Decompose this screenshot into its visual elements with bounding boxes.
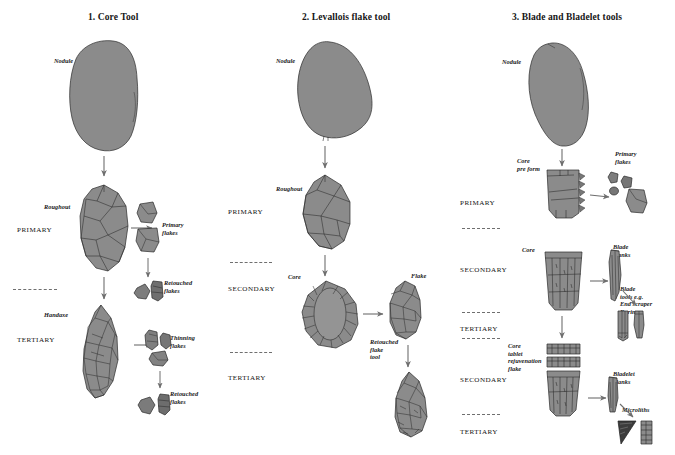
arrow-to-microliths-col3 (620, 404, 633, 417)
lithic-reduction-diagram (0, 0, 675, 455)
shape-retouched-flake-a-col1 (134, 284, 150, 299)
shape-core-blade-col3 (545, 252, 582, 310)
shape-primary-flake-a-col1 (137, 202, 157, 223)
shape-core-tablet-b-col3 (547, 357, 580, 367)
shape-nodule-col3 (529, 43, 589, 146)
shape-burin-col3 (634, 311, 644, 338)
shape-primary-flake-c-col3 (610, 187, 619, 195)
shape-retouched-flake-tool-col2 (395, 372, 427, 437)
shape-end-scraper-col3 (618, 311, 628, 341)
shape-core-pre-form-col3 (547, 170, 585, 218)
shape-retouched-flake-d-col1 (158, 394, 170, 415)
arrow-to-blade-tools-col3 (623, 291, 636, 305)
shape-thinning-flake-a-col1 (145, 330, 158, 350)
shape-roughout-col2 (303, 175, 350, 249)
shape-handaxe-col1 (83, 305, 118, 398)
shape-microlith-rectangle-col3 (641, 421, 652, 444)
shape-thinning-flake-b-col1 (160, 333, 171, 349)
shape-primary-flake-a-col3 (608, 172, 618, 183)
shape-retouched-flake-c-col1 (138, 397, 155, 414)
shape-primary-flake-d-col3 (626, 189, 647, 213)
shape-microlith-triangle-col3 (618, 421, 636, 444)
shape-retouched-flake-b-col1 (151, 281, 163, 301)
shape-core-col2 (302, 281, 358, 348)
shape-thinning-flake-c-col1 (149, 351, 168, 366)
shape-nodule-col1 (70, 41, 138, 151)
shape-core-tablet-a-col3 (547, 344, 580, 354)
shape-bladelet-blank-col3 (608, 377, 618, 412)
shape-bladelet-core-col3 (547, 371, 580, 416)
shape-blade-blank-col3 (609, 250, 621, 301)
shape-primary-flake-b-col1 (136, 228, 159, 252)
shape-flake-col2 (390, 281, 421, 339)
arrow-to-primary-flakes-col3 (590, 195, 609, 197)
shape-primary-flake-b-col3 (621, 176, 632, 188)
shape-roughout-col1 (80, 185, 128, 271)
shape-nodule-col2 (298, 42, 372, 141)
